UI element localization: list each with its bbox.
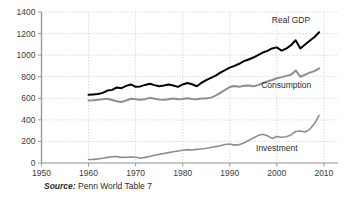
source-text: Penn World Table 7 (78, 181, 152, 191)
series-label-real-gdp: Real GDP (272, 15, 311, 25)
ytick-label-600: 600 (21, 93, 35, 103)
economic-indicators-line-chart: 0200400600800100012001400 19501960197019… (0, 0, 344, 201)
y-axis-ticks: 0200400600800100012001400 (17, 7, 42, 168)
ytick-label-0: 0 (31, 158, 36, 168)
xtick-label-1970: 1970 (126, 168, 145, 178)
ytick-label-400: 400 (21, 115, 35, 125)
xtick-label-2010: 2010 (314, 168, 333, 178)
source-note: Source: Penn World Table 7 (44, 181, 152, 191)
data-series-group (89, 32, 320, 159)
xtick-label-1960: 1960 (79, 168, 98, 178)
xtick-label-2000: 2000 (267, 168, 286, 178)
xtick-label-1990: 1990 (220, 168, 239, 178)
ytick-label-1200: 1200 (17, 29, 36, 39)
xtick-label-1980: 1980 (173, 168, 192, 178)
x-axis-ticks: 1950196019701980199020002010 (32, 163, 334, 178)
series-label-investment: Investment (256, 143, 298, 153)
series-label-consumption: Consumption (261, 80, 311, 90)
ytick-label-1400: 1400 (17, 7, 36, 17)
source-label: Source: (44, 181, 76, 191)
ytick-label-200: 200 (21, 136, 35, 146)
ytick-label-800: 800 (21, 72, 35, 82)
xtick-label-1950: 1950 (32, 168, 51, 178)
ytick-label-1000: 1000 (17, 50, 36, 60)
